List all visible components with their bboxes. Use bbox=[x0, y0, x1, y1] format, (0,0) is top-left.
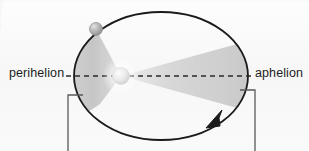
perihelion-label: perihelion bbox=[9, 67, 64, 80]
planet-marker bbox=[90, 23, 103, 36]
orbit-direction-arrow bbox=[206, 110, 222, 128]
left-bracket bbox=[68, 95, 83, 151]
aphelion-label: aphelion bbox=[255, 67, 303, 80]
orbit-diagram-figure: perihelion aphelion bbox=[0, 0, 309, 151]
sun-at-focus bbox=[113, 68, 130, 85]
